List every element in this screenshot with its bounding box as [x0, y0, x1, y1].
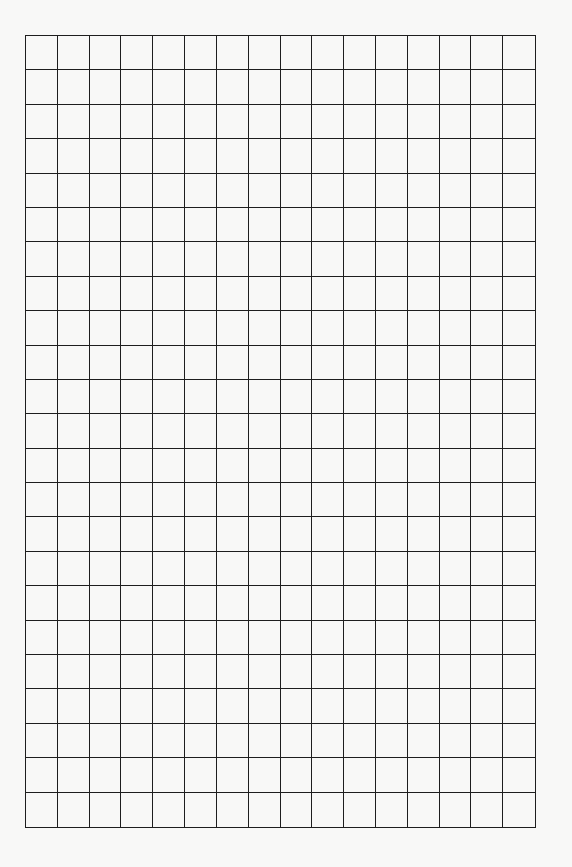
grid-cell [503, 655, 535, 689]
grid-cell [153, 36, 185, 70]
grid-cell [281, 311, 313, 345]
grid-cell [471, 449, 503, 483]
grid-cell [249, 380, 281, 414]
grid-cell [408, 311, 440, 345]
grid-cell [153, 208, 185, 242]
grid-cell [121, 414, 153, 448]
grid-cell [26, 724, 58, 758]
grid-cell [121, 242, 153, 276]
grid-cell [376, 449, 408, 483]
grid-cell [26, 242, 58, 276]
grid-cell [185, 483, 217, 517]
grid-cell [503, 758, 535, 792]
grid-cell [471, 105, 503, 139]
grid-cell [58, 70, 90, 104]
grid-cell [408, 758, 440, 792]
grid-cell [376, 242, 408, 276]
grid-cell [249, 242, 281, 276]
grid-cell [26, 586, 58, 620]
grid-cell [471, 793, 503, 827]
grid-cell [408, 139, 440, 173]
grid-cell [217, 242, 249, 276]
grid-cell [471, 242, 503, 276]
grid-cell [153, 758, 185, 792]
grid-cell [249, 793, 281, 827]
grid-cell [249, 105, 281, 139]
grid-cell [503, 208, 535, 242]
grid-cell [471, 380, 503, 414]
graph-paper-sheet [0, 0, 572, 867]
grid-cell [58, 414, 90, 448]
grid-cell [471, 277, 503, 311]
grid-cell [376, 208, 408, 242]
grid-cell [376, 105, 408, 139]
grid-cell [440, 36, 472, 70]
grid-cell [376, 414, 408, 448]
grid-cell [281, 208, 313, 242]
grid-cell [26, 346, 58, 380]
grid-cell [90, 449, 122, 483]
grid-cell [185, 655, 217, 689]
grid-cell [503, 277, 535, 311]
grid-cell [281, 346, 313, 380]
grid-cell [217, 793, 249, 827]
grid-cell [344, 311, 376, 345]
grid-cell [312, 174, 344, 208]
grid-cell [217, 517, 249, 551]
grid-cell [153, 242, 185, 276]
grid-cell [90, 689, 122, 723]
grid-cell [281, 689, 313, 723]
square-grid [25, 35, 536, 828]
grid-cell [376, 758, 408, 792]
grid-cell [217, 655, 249, 689]
grid-cell [471, 724, 503, 758]
grid-cell [249, 621, 281, 655]
grid-cell [440, 552, 472, 586]
grid-cell [121, 586, 153, 620]
grid-cell [90, 483, 122, 517]
grid-cell [90, 311, 122, 345]
grid-cell [185, 36, 217, 70]
grid-cell [90, 242, 122, 276]
grid-cell [440, 793, 472, 827]
grid-cell [281, 277, 313, 311]
grid-cell [503, 517, 535, 551]
grid-cell [344, 174, 376, 208]
grid-cell [249, 689, 281, 723]
grid-cell [185, 689, 217, 723]
grid-cell [121, 483, 153, 517]
grid-cell [312, 517, 344, 551]
grid-cell [408, 655, 440, 689]
grid-cell [121, 139, 153, 173]
grid-cell [376, 483, 408, 517]
grid-cell [281, 655, 313, 689]
grid-cell [281, 449, 313, 483]
grid-cell [503, 483, 535, 517]
grid-cell [376, 380, 408, 414]
grid-cell [58, 621, 90, 655]
grid-cell [376, 793, 408, 827]
grid-cell [440, 758, 472, 792]
grid-cell [185, 724, 217, 758]
grid-cell [281, 174, 313, 208]
grid-cell [58, 139, 90, 173]
grid-cell [121, 105, 153, 139]
grid-cell [503, 724, 535, 758]
grid-cell [185, 449, 217, 483]
grid-cell [217, 208, 249, 242]
grid-cell [26, 380, 58, 414]
grid-cell [90, 139, 122, 173]
grid-cell [503, 311, 535, 345]
grid-cell [471, 655, 503, 689]
grid-cell [471, 689, 503, 723]
grid-cell [26, 105, 58, 139]
grid-cell [312, 552, 344, 586]
grid-cell [408, 277, 440, 311]
grid-cell [312, 793, 344, 827]
grid-cell [281, 242, 313, 276]
grid-cell [471, 586, 503, 620]
grid-cell [312, 414, 344, 448]
grid-cell [153, 483, 185, 517]
grid-cell [217, 689, 249, 723]
grid-cell [58, 174, 90, 208]
